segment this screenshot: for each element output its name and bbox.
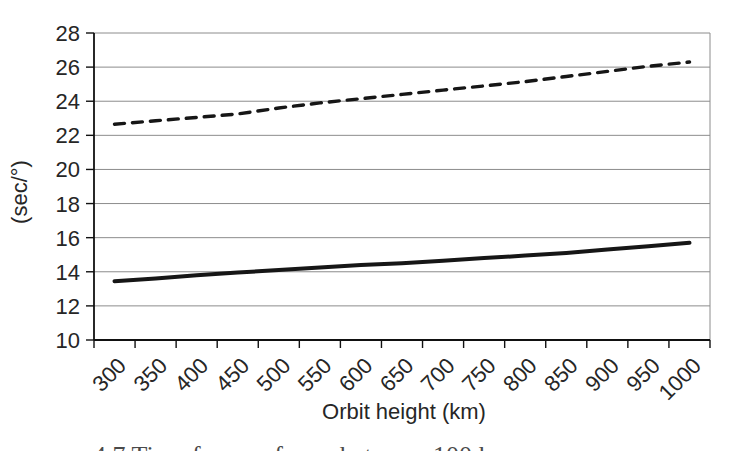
x-tick-label: 550 xyxy=(293,353,337,397)
y-tick-label: 10 xyxy=(56,328,80,353)
series-upper-dashed-line xyxy=(115,62,690,124)
y-tick-labels: 10121416182022242628 xyxy=(56,21,80,353)
x-tick-label: 450 xyxy=(211,353,255,397)
x-tick-label: 400 xyxy=(170,353,214,397)
y-tick-label: 22 xyxy=(56,123,80,148)
series-lower-solid-line xyxy=(115,243,690,281)
y-tick-label: 20 xyxy=(56,157,80,182)
x-tick-label: 800 xyxy=(498,353,542,397)
x-tick-label: 600 xyxy=(334,353,378,397)
y-axis-title: (sec/°) xyxy=(7,160,33,224)
axes xyxy=(94,33,710,340)
y-tick-label: 18 xyxy=(56,192,80,217)
x-tick-label: 750 xyxy=(457,353,501,397)
x-tick-label: 850 xyxy=(539,353,583,397)
figure-caption-clipped: 4.7 Time for … of a … between 100 k… xyxy=(93,441,733,451)
y-tick-label: 28 xyxy=(56,21,80,46)
x-tick-label: 700 xyxy=(416,353,460,397)
line-chart: 1012141618202224262830035040045050055060… xyxy=(0,0,733,451)
x-tick-label: 1000 xyxy=(654,353,706,405)
x-tick-label: 500 xyxy=(252,353,296,397)
figure: 1012141618202224262830035040045050055060… xyxy=(0,0,733,451)
x-tick-label: 900 xyxy=(580,353,624,397)
x-tick-label: 350 xyxy=(128,353,172,397)
tick-marks xyxy=(86,33,710,348)
x-axis-title: Orbit height (km) xyxy=(322,399,486,425)
x-tick-labels: 3003504004505005506006507007508008509009… xyxy=(87,353,706,405)
y-tick-label: 14 xyxy=(56,260,80,285)
y-tick-label: 12 xyxy=(56,294,80,319)
y-tick-label: 24 xyxy=(56,89,80,114)
x-tick-label: 650 xyxy=(375,353,419,397)
y-tick-label: 16 xyxy=(56,226,80,251)
x-tick-label: 300 xyxy=(87,353,131,397)
y-tick-label: 26 xyxy=(56,55,80,80)
